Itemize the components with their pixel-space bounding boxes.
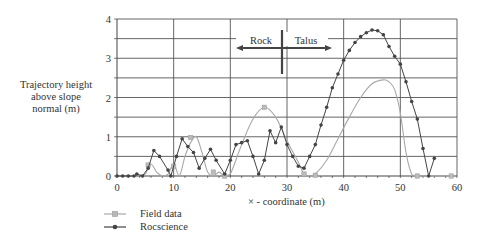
svg-text:20: 20: [225, 182, 236, 193]
series-rocscience: [115, 28, 436, 178]
legend-label-field-data: Field data: [140, 207, 182, 220]
svg-text:0: 0: [106, 171, 111, 182]
svg-text:60: 60: [452, 182, 463, 193]
svg-text:Talus: Talus: [295, 35, 318, 46]
svg-text:1: 1: [106, 132, 111, 143]
square-marker-icon: [104, 209, 126, 219]
svg-text:Rock: Rock: [250, 35, 273, 46]
rock-talus-annotation: RockTalus: [236, 30, 332, 74]
trajectory-chart: 010203040506001234 RockTalus: [0, 0, 480, 239]
svg-text:30: 30: [282, 182, 293, 193]
svg-text:2: 2: [106, 93, 111, 104]
svg-text:10: 10: [168, 182, 179, 193]
svg-text:50: 50: [395, 182, 406, 193]
svg-text:0: 0: [114, 182, 119, 193]
legend-label-rocscience: Rocscience: [140, 220, 188, 233]
y-axis-label-line2: above slope: [8, 91, 104, 103]
circle-marker-icon: [104, 222, 126, 232]
svg-text:4: 4: [106, 14, 112, 25]
svg-text:3: 3: [106, 53, 111, 64]
y-axis-label-line3: normal (m): [8, 103, 104, 115]
legend-item-rocscience: Rocscience: [104, 220, 188, 233]
y-axis-label-line1: Trajectory height: [8, 79, 104, 91]
chart-legend: Field data Rocscience: [104, 207, 188, 233]
svg-text:40: 40: [338, 182, 349, 193]
series-field-data: [117, 80, 454, 178]
y-axis-label: Trajectory height above slope normal (m): [8, 79, 104, 115]
legend-item-field-data: Field data: [104, 207, 188, 220]
x-axis-label: × - coordinate (m): [248, 196, 325, 207]
